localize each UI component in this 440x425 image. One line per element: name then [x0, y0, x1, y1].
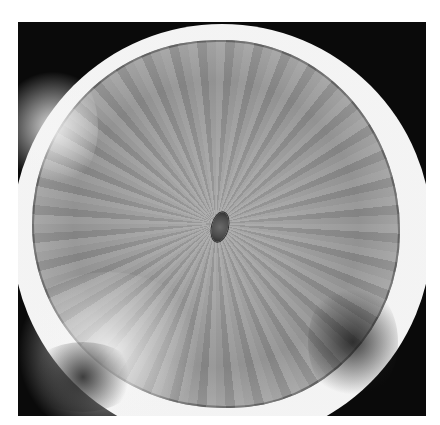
dark-region-bottom-left [28, 342, 138, 412]
dark-region-lower-right [308, 282, 398, 402]
specimen-image-frame: Grayscale photograph of a roughly circul… [18, 22, 426, 416]
